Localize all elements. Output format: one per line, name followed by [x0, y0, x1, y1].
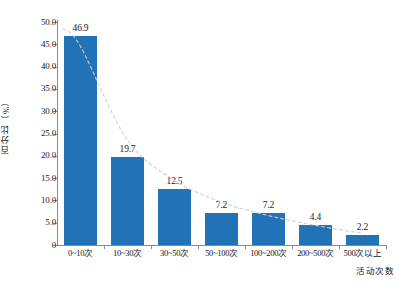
- x-category-label: 30~50次: [151, 249, 198, 258]
- bar: [299, 225, 332, 245]
- bar: [64, 36, 97, 245]
- x-axis-line: [57, 245, 387, 246]
- y-tick-label: 15.0: [41, 174, 56, 183]
- bar: [205, 213, 238, 245]
- bar-value-label: 7.2: [202, 201, 242, 211]
- bar-value-label: 7.2: [249, 201, 289, 211]
- y-tick-label: 5.0: [45, 218, 56, 227]
- bar-value-label: 2.2: [343, 223, 383, 233]
- x-category-label: 10~30次: [104, 249, 151, 258]
- y-tick-label: 35.0: [41, 84, 56, 93]
- x-tick-mark: [386, 245, 387, 249]
- bar-value-label: 46.9: [61, 24, 101, 34]
- y-axis-title: 百分比（%）: [2, 96, 16, 154]
- figure-caption-remnant: [112, 285, 308, 293]
- y-tick-label: 30.0: [41, 107, 56, 116]
- x-category-label: 0~10次: [57, 249, 104, 258]
- bar: [252, 213, 285, 245]
- x-category-label: 200~500次: [292, 249, 339, 258]
- y-tick-label: 0: [52, 241, 56, 250]
- bar: [346, 235, 379, 245]
- y-tick-label: 10.0: [41, 196, 56, 205]
- bar-value-label: 4.4: [296, 213, 336, 223]
- y-tick-label: 50.0: [41, 18, 56, 27]
- bar-value-label: 12.5: [155, 177, 195, 187]
- bar-chart-figure: 05.010.015.020.025.030.035.040.045.050.0…: [0, 0, 408, 296]
- x-category-label: 100~200次: [245, 249, 292, 258]
- x-axis-title: 活动次数: [356, 264, 394, 276]
- bar-value-label: 19.7: [108, 145, 148, 155]
- bar: [111, 157, 144, 245]
- y-tick-label: 20.0: [41, 151, 56, 160]
- y-tick-label: 40.0: [41, 62, 56, 71]
- y-tick-label: 45.0: [41, 40, 56, 49]
- y-tick-label: 25.0: [41, 129, 56, 138]
- x-category-label: 500次以上: [339, 249, 386, 258]
- x-category-label: 50~100次: [198, 249, 245, 258]
- bar: [158, 189, 191, 245]
- y-axis-line: [57, 20, 58, 246]
